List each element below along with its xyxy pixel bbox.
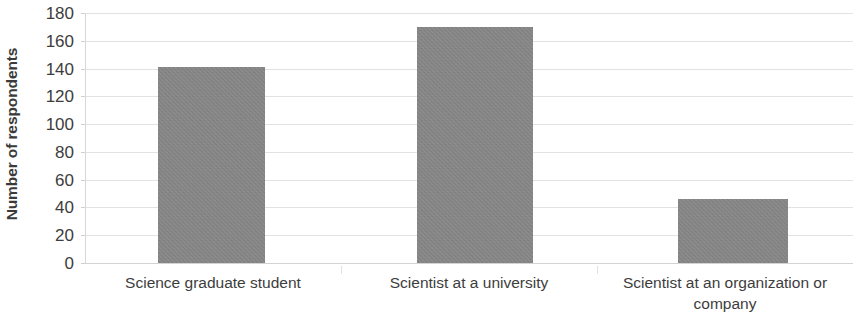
y-axis-tick-mark: [81, 235, 85, 236]
y-axis-tick-mark: [81, 41, 85, 42]
x-axis-category-labels: Science graduate studentScientist at a u…: [85, 272, 853, 327]
x-axis-category-separator: [597, 266, 598, 274]
y-axis-line: [85, 13, 86, 263]
x-axis-category-label: Scientist at a university: [341, 272, 597, 293]
y-axis-title-text: Number of respondents: [3, 48, 21, 221]
y-axis-tick-label: 0: [22, 255, 74, 272]
x-axis-category-label-line: Scientist at an organization or: [597, 272, 853, 293]
y-axis-tick-label: 120: [22, 88, 74, 105]
y-axis-tick-mark: [81, 69, 85, 70]
y-axis-tick-labels: 180160140120100806040200: [22, 0, 80, 268]
plot-area: [85, 13, 853, 263]
x-axis-category-label-line: Science graduate student: [85, 272, 341, 293]
y-axis-tick-mark: [81, 152, 85, 153]
y-axis-title: Number of respondents: [0, 0, 24, 268]
y-axis-tick-label: 140: [22, 60, 74, 77]
y-axis-tick-label: 40: [22, 199, 74, 216]
y-axis-tick-label: 60: [22, 171, 74, 188]
bar: [678, 199, 788, 263]
x-axis-category-label-line: Scientist at a university: [341, 272, 597, 293]
x-axis-category-label: Scientist at an organization orcompany: [597, 272, 853, 314]
bar-chart: Number of respondents 180160140120100806…: [0, 0, 856, 327]
y-axis-tick-mark: [81, 263, 85, 264]
y-axis-tick-label: 160: [22, 32, 74, 49]
y-axis-tick-mark: [81, 96, 85, 97]
gridline: [85, 13, 853, 14]
y-axis-tick-mark: [81, 207, 85, 208]
y-axis-tick-label: 180: [22, 5, 74, 22]
gridline: [85, 263, 853, 264]
x-axis-category-label-line: company: [597, 293, 853, 314]
y-axis-tick-mark: [81, 13, 85, 14]
x-axis-category-label: Science graduate student: [85, 272, 341, 293]
y-axis-tick-mark: [81, 124, 85, 125]
bar: [158, 67, 265, 263]
x-axis-category-separator: [341, 266, 342, 274]
y-axis-tick-mark: [81, 180, 85, 181]
y-axis-tick-label: 100: [22, 116, 74, 133]
y-axis-tick-label: 80: [22, 143, 74, 160]
bar: [417, 27, 533, 263]
y-axis-tick-label: 20: [22, 227, 74, 244]
